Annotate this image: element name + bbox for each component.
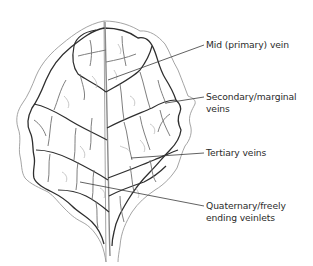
label-tertiary-veins-line1: Tertiary veins (206, 147, 266, 159)
label-secondary-veins: Secondary/marginal veins (206, 91, 297, 115)
label-tertiary-veins: Tertiary veins (206, 147, 266, 159)
label-quaternary-veinlets-line1: Quaternary/freely (206, 200, 286, 212)
leader-line-mid (108, 45, 204, 80)
label-secondary-veins-line2: veins (206, 103, 297, 115)
label-quaternary-veinlets-line2: ending veinlets (206, 212, 286, 224)
label-secondary-veins-line1: Secondary/marginal (206, 91, 297, 103)
label-mid-vein-line1: Mid (primary) vein (206, 39, 289, 51)
leader-line-quaternary (80, 182, 204, 206)
label-quaternary-veinlets: Quaternary/freely ending veinlets (206, 200, 286, 224)
label-mid-vein: Mid (primary) vein (206, 39, 289, 51)
